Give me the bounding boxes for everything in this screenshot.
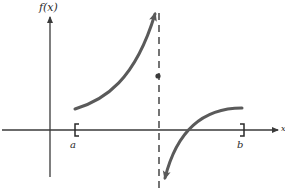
isolated-point [155,73,160,78]
function-graph-figure: f(x) a b x [0,0,285,189]
x-axis-label: x [281,125,285,133]
y-axis-label: f(x) [39,2,58,13]
interval-left-label: a [70,140,76,150]
graph-canvas [0,0,285,189]
left-branch-curve [75,14,155,109]
interval-right-label: b [237,140,243,150]
right-branch-curve [165,108,242,178]
